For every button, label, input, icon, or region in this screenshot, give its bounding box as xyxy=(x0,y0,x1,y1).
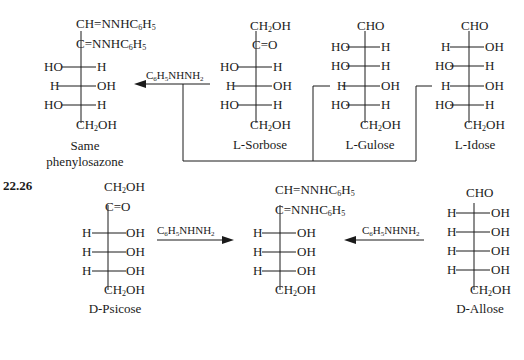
row2-right: H xyxy=(485,59,494,73)
c1-label: CH=NNHC6H5 xyxy=(76,17,156,31)
row1-left: H xyxy=(253,226,262,240)
row3-left: H xyxy=(253,264,262,278)
row4-right: OH xyxy=(491,263,510,277)
row2-right: H xyxy=(381,59,390,73)
row2-left: H xyxy=(253,245,262,259)
row4-left: HO xyxy=(435,98,454,112)
c1-label: CH2OH xyxy=(250,19,291,33)
bottom-label: CH2OH xyxy=(464,118,505,132)
row2-right: OH xyxy=(273,79,292,93)
row1-right: OH xyxy=(491,206,510,220)
row3-right: OH xyxy=(491,244,510,258)
row3-right: H xyxy=(273,98,282,112)
bottom-label: CH2OH xyxy=(76,118,117,132)
row4-right: H xyxy=(381,98,390,112)
c2-label: C=O xyxy=(105,200,130,214)
row1-right: OH xyxy=(126,226,145,240)
row2-right: OH xyxy=(97,79,116,93)
c1-label: CH2OH xyxy=(104,180,145,194)
row1-left: H xyxy=(82,226,91,240)
problem-number: 22.26 xyxy=(3,178,32,194)
gulose-name: L-Gulose xyxy=(335,137,405,153)
row2-left: H xyxy=(50,79,59,93)
row3-right: H xyxy=(97,98,106,112)
row4-left: HO xyxy=(331,98,350,112)
row1-left: H xyxy=(441,40,450,54)
row3-right: OH xyxy=(126,264,145,278)
bottom-label: CH2OH xyxy=(275,283,316,297)
c1-label: CHO xyxy=(357,19,384,33)
c2-label: C=NNHC6H5 xyxy=(275,203,345,217)
row3-left: H xyxy=(337,79,346,93)
row2-right: OH xyxy=(491,225,510,239)
row2-right: OH xyxy=(126,245,145,259)
row1-right: H xyxy=(381,40,390,54)
row1-left: H xyxy=(447,206,456,220)
bottom-label: CH2OH xyxy=(104,283,145,297)
idose-name: L-Idose xyxy=(440,137,510,153)
arrowhead-left-bottom xyxy=(344,236,356,244)
row3-left: H xyxy=(447,244,456,258)
row1-right: H xyxy=(273,60,282,74)
bottom-label: CH2OH xyxy=(360,118,401,132)
arrowhead-left-top xyxy=(134,80,146,88)
arrowhead-right-bottom xyxy=(222,236,234,244)
reagent-label-top: C6H5NHNH2 xyxy=(146,69,204,81)
c2-label: C=NNHC6H5 xyxy=(76,37,146,51)
bottom-label: CH2OH xyxy=(250,118,291,132)
row3-right: OH xyxy=(381,79,400,93)
row1-right: H xyxy=(97,60,106,74)
row1-left: HO xyxy=(331,40,350,54)
row1-left: HO xyxy=(44,60,63,74)
row1-left: HO xyxy=(220,60,239,74)
row3-left: HO xyxy=(44,98,63,112)
row3-left: H xyxy=(441,79,450,93)
c1-label: CHO xyxy=(461,19,488,33)
c2-label: C=O xyxy=(252,38,277,52)
c1-label: CHO xyxy=(466,186,493,200)
product-name-line2: phenylosazone xyxy=(40,154,130,170)
row3-right: OH xyxy=(485,79,504,93)
row1-right: OH xyxy=(297,226,316,240)
row3-right: OH xyxy=(297,264,316,278)
row2-left: HO xyxy=(435,59,454,73)
row2-left: H xyxy=(447,225,456,239)
row2-right: OH xyxy=(297,245,316,259)
row2-left: H xyxy=(82,245,91,259)
bottom-label: CH2OH xyxy=(470,283,511,297)
row4-left: H xyxy=(447,263,456,277)
row3-left: H xyxy=(82,264,91,278)
row2-left: HO xyxy=(331,59,350,73)
psicose-name: D-Psicose xyxy=(80,301,150,317)
sorbose-name: L-Sorbose xyxy=(225,137,295,153)
reagent-label-bottom-right: C6H5NHNH2 xyxy=(362,224,420,236)
row3-left: HO xyxy=(220,98,239,112)
reagent-label-bottom-left: C6H5NHNH2 xyxy=(157,224,215,236)
c1-label: CH=NNHC6H5 xyxy=(275,183,355,197)
row2-left: H xyxy=(226,79,235,93)
product-name-line1: Same xyxy=(50,138,120,154)
row4-right: H xyxy=(485,98,494,112)
row1-right: OH xyxy=(485,40,504,54)
allose-name: D-Allose xyxy=(445,301,515,317)
